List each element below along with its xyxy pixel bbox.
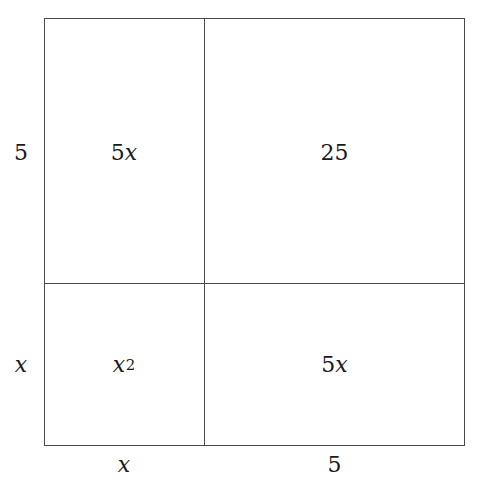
edge-label-left-bottom: x [2, 345, 40, 385]
edge-label-bottom-right: 5 [205, 448, 464, 482]
grid-outer-rectangle [44, 18, 465, 446]
edge-label-left-top: 5 [2, 133, 40, 173]
area-model-diagram: 5x 25 x2 5x 5 x x 5 [0, 0, 489, 491]
grid-vertical-divider [204, 18, 205, 446]
edge-label-bottom-left: x [45, 448, 203, 482]
grid-horizontal-divider [44, 283, 465, 284]
